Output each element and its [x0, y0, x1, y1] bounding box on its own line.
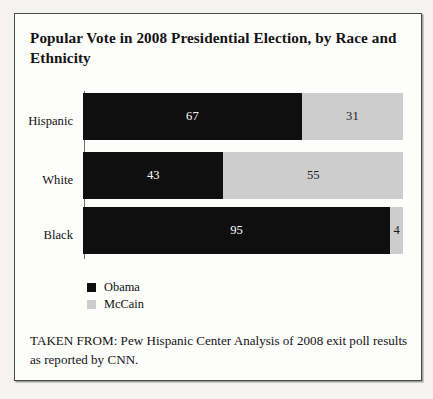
- bar-segment-mccain-white: 55: [223, 152, 403, 199]
- bar-segment-mccain-hispanic: 31: [302, 93, 403, 140]
- category-label-white: White: [15, 173, 73, 188]
- category-label-hispanic: Hispanic: [15, 114, 73, 129]
- bar-value-mccain-black: 4: [393, 224, 399, 237]
- legend-item-obama: Obama: [87, 279, 144, 296]
- legend-label-obama: Obama: [104, 281, 140, 293]
- bar-segment-obama-hispanic: 67: [83, 93, 302, 140]
- bar-value-mccain-hispanic: 31: [346, 110, 359, 123]
- legend-label-mccain: McCain: [104, 298, 144, 310]
- chart-title: Popular Vote in 2008 Presidential Electi…: [30, 28, 406, 68]
- legend-swatch-mccain: [87, 300, 96, 309]
- bar-value-obama-hispanic: 67: [186, 110, 199, 123]
- bar-segment-obama-black: 95: [83, 207, 390, 254]
- bar-value-obama-black: 95: [230, 224, 243, 237]
- bar-value-mccain-white: 55: [307, 169, 320, 182]
- bar-segment-obama-white: 43: [83, 152, 223, 199]
- chart-figure: Popular Vote in 2008 Presidential Electi…: [14, 13, 422, 381]
- bar-row-hispanic: 67 31: [83, 93, 403, 140]
- bar-row-black: 95 4: [83, 207, 403, 254]
- chart-plot-area: Hispanic White Black 67 31 43 55 95 4: [15, 88, 423, 260]
- source-note: TAKEN FROM: Pew Hispanic Center Analysis…: [30, 332, 408, 369]
- chart-legend: Obama McCain: [87, 279, 144, 313]
- bar-value-obama-white: 43: [147, 169, 160, 182]
- legend-item-mccain: McCain: [87, 296, 144, 313]
- bar-row-white: 43 55: [83, 152, 403, 199]
- bar-segment-mccain-black: 4: [390, 207, 403, 254]
- legend-swatch-obama: [87, 283, 96, 292]
- category-label-black: Black: [15, 228, 73, 243]
